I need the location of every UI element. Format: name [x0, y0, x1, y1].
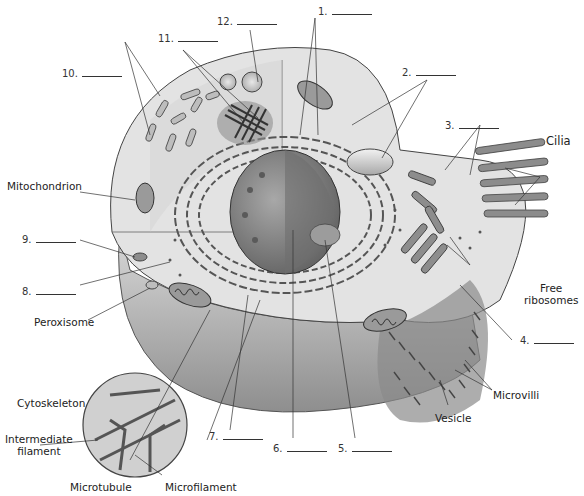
label-7-blank[interactable]: [223, 438, 263, 440]
label-8-blank[interactable]: [36, 293, 76, 295]
label-7-number: 7.: [209, 431, 219, 442]
label-4-number: 4.: [520, 335, 530, 346]
label-10-number: 10.: [62, 68, 78, 79]
label-2-blank[interactable]: [416, 74, 456, 76]
organelle-9: [133, 253, 147, 261]
label-12: 12.: [217, 16, 277, 27]
label-11: 11.: [158, 33, 218, 44]
label-11-number: 11.: [158, 33, 174, 44]
label-8: 8.: [22, 286, 76, 297]
label-microfilament: Microfilament: [165, 482, 237, 494]
label-5-number: 5.: [338, 443, 348, 454]
vacuole: [347, 149, 393, 175]
label-free-ribosomes-line1: Free: [524, 283, 578, 295]
label-4-blank[interactable]: [534, 342, 574, 344]
label-9-blank[interactable]: [36, 241, 76, 243]
label-10-blank[interactable]: [82, 75, 122, 77]
label-6-blank[interactable]: [287, 450, 327, 452]
label-6: 6.: [273, 443, 327, 454]
label-4: 4.: [520, 335, 574, 346]
label-3-blank[interactable]: [459, 127, 499, 129]
label-8-number: 8.: [22, 286, 32, 297]
label-free-ribosomes-line2: ribosomes: [524, 295, 578, 307]
label-1-blank[interactable]: [332, 13, 372, 15]
label-2-number: 2.: [402, 67, 412, 78]
label-11-blank[interactable]: [178, 40, 218, 42]
centrioles: [217, 101, 273, 145]
cytoskeleton-inset: [83, 373, 187, 477]
label-10: 10.: [62, 68, 122, 79]
label-mitochondrion: Mitochondrion: [7, 181, 82, 193]
label-1-number: 1.: [318, 6, 328, 17]
label-5: 5.: [338, 443, 392, 454]
label-5-blank[interactable]: [352, 450, 392, 452]
label-6-number: 6.: [273, 443, 283, 454]
label-7: 7.: [209, 431, 263, 442]
label-cytoskeleton: Cytoskeleton: [17, 398, 85, 410]
label-vesicle: Vesicle: [435, 413, 471, 425]
label-2: 2.: [402, 67, 456, 78]
label-3-number: 3.: [445, 120, 455, 131]
label-peroxisome: Peroxisome: [34, 317, 94, 329]
label-3: 3.: [445, 120, 499, 131]
label-free-ribosomes: Free ribosomes: [524, 283, 578, 306]
label-12-blank[interactable]: [237, 23, 277, 25]
label-9-number: 9.: [22, 234, 32, 245]
label-microtubule: Microtubule: [70, 482, 132, 494]
nucleus: [230, 150, 340, 274]
label-12-number: 12.: [217, 16, 233, 27]
peroxisome: [146, 281, 158, 289]
label-microvilli: Microvilli: [493, 390, 539, 402]
label-cilia: Cilia: [546, 135, 571, 148]
label-intermediate-filament: Intermediate filament: [5, 434, 73, 457]
label-intermediate-filament-line1: Intermediate: [5, 434, 73, 446]
label-9: 9.: [22, 234, 76, 245]
label-intermediate-filament-line2: filament: [5, 446, 73, 458]
nucleolus: [310, 224, 340, 246]
label-1: 1.: [318, 6, 372, 17]
